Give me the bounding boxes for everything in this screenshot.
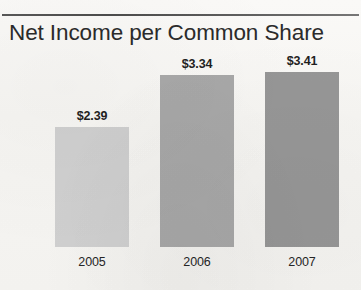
bar-category-label: 2006 — [183, 255, 210, 269]
bar-value-label: $2.39 — [77, 109, 107, 123]
bar-chart-plot-area: $2.39 2005 $3.34 2006 $3.41 2007 — [0, 0, 361, 290]
bar-group-2006: $3.34 2006 — [160, 75, 234, 247]
bar-rect-2005[interactable] — [55, 127, 129, 247]
bar-value-label: $3.41 — [287, 54, 317, 68]
bar-category-label: 2007 — [288, 255, 315, 269]
chart-figure: Net Income per Common Share $2.39 2005 $… — [0, 0, 361, 290]
bar-rect-2007[interactable] — [265, 72, 339, 247]
bar-group-2007: $3.41 2007 — [265, 72, 339, 247]
bar-group-2005: $2.39 2005 — [55, 127, 129, 247]
bar-value-label: $3.34 — [182, 57, 212, 71]
bar-rect-2006[interactable] — [160, 75, 234, 247]
bar-category-label: 2005 — [78, 255, 105, 269]
